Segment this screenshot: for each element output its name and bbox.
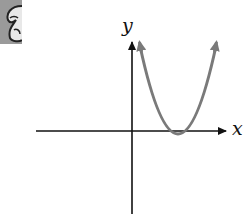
y-axis-label: y [122,14,133,36]
x-axis-label: x [232,117,243,139]
parabola-curve [140,46,216,134]
